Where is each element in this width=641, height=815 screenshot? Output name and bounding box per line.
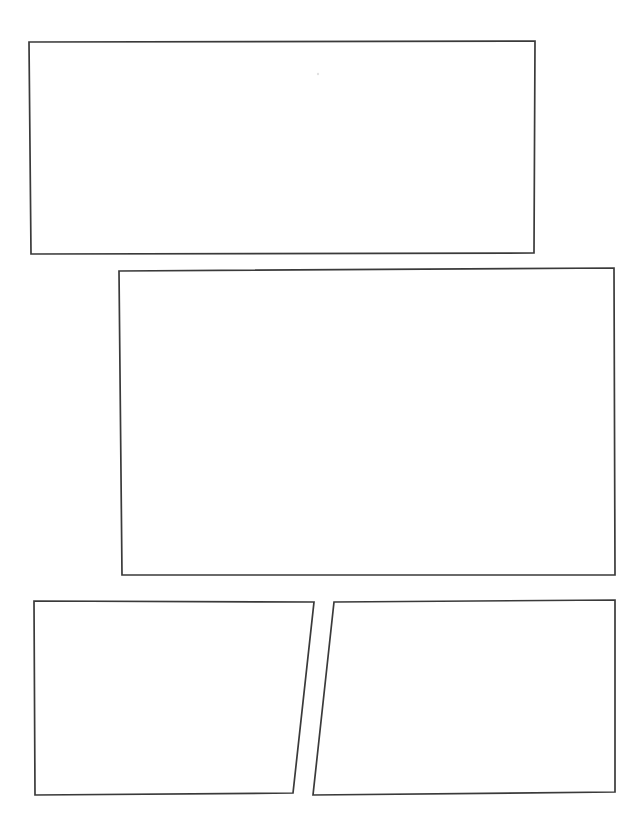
panel-2[interactable] xyxy=(119,268,615,575)
comic-page xyxy=(0,0,641,815)
panel-3[interactable] xyxy=(34,601,314,795)
scan-speck xyxy=(317,73,319,75)
page-canvas xyxy=(0,0,641,815)
panel-1[interactable] xyxy=(29,41,535,254)
panel-4[interactable] xyxy=(313,600,615,795)
